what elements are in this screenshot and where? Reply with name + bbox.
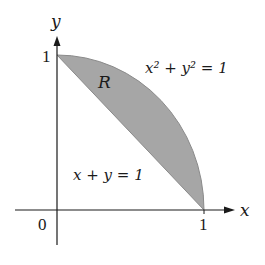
y-tick-label: 1 [42,47,51,66]
region-diagram: y x 1 1 0 R x² + y² = 1 x + y = 1 [0,0,265,265]
region-label: R [97,72,111,92]
line-equation-label: x + y = 1 [73,166,144,184]
circle-equation-label: x² + y² = 1 [145,59,228,77]
y-axis-arrow-icon [54,36,61,46]
x-axis-label: x [240,200,250,220]
x-tick-label: 1 [199,215,208,234]
origin-label: 0 [38,215,47,234]
region-r [57,55,204,210]
y-axis-label: y [50,11,61,31]
x-axis-arrow-icon [224,207,235,214]
